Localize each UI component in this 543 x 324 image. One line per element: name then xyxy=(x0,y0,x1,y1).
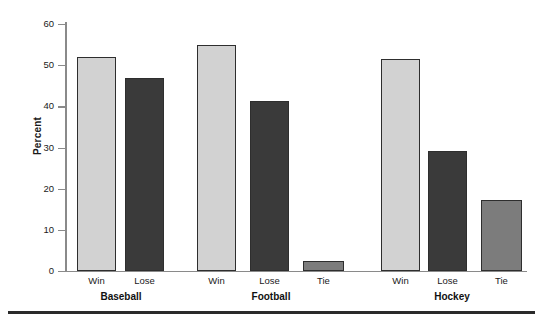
y-tick-label: 30 xyxy=(26,142,54,153)
bar-chart: Percent 6050403020100 WinLoseWinLoseTieW… xyxy=(0,0,543,324)
bar-football-lose xyxy=(250,101,289,271)
y-tick-label: 20 xyxy=(26,183,54,194)
x-label-football-lose: Lose xyxy=(242,275,297,286)
group-label-football: Football xyxy=(221,291,321,302)
x-label-hockey-lose: Lose xyxy=(420,275,475,286)
bar-hockey-win xyxy=(381,59,420,271)
bar-baseball-win xyxy=(77,57,116,271)
y-tick-mark xyxy=(58,65,65,66)
y-tick-mark xyxy=(58,271,65,272)
x-label-hockey-tie: Tie xyxy=(473,275,530,286)
y-tick-label: 10 xyxy=(26,224,54,235)
bar-football-win xyxy=(197,45,236,271)
bar-baseball-lose xyxy=(125,78,164,271)
y-tick-mark xyxy=(58,230,65,231)
y-tick-label: 60 xyxy=(26,18,54,29)
y-tick-mark xyxy=(58,189,65,190)
bar-hockey-lose xyxy=(428,151,467,271)
bar-hockey-tie xyxy=(481,200,522,271)
bottom-rule xyxy=(8,311,535,314)
x-label-baseball-win: Win xyxy=(69,275,124,286)
y-tick-mark xyxy=(58,106,65,107)
y-tick-label: 50 xyxy=(26,59,54,70)
bar-football-tie xyxy=(303,261,344,271)
x-label-football-tie: Tie xyxy=(295,275,352,286)
y-tick-mark xyxy=(58,148,65,149)
x-label-baseball-lose: Lose xyxy=(117,275,172,286)
group-label-baseball: Baseball xyxy=(71,291,171,302)
group-label-hockey: Hockey xyxy=(402,291,502,302)
y-tick-mark xyxy=(58,24,65,25)
bars-layer xyxy=(66,22,527,271)
y-tick-label: 0 xyxy=(26,265,54,276)
y-tick-label: 40 xyxy=(26,100,54,111)
x-label-football-win: Win xyxy=(189,275,244,286)
